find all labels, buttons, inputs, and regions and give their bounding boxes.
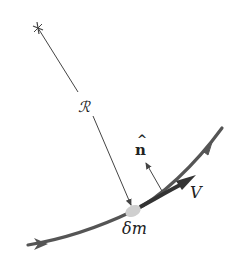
- velocity-label: V: [190, 183, 203, 202]
- radius-label: ℛ: [78, 98, 91, 116]
- streamline-diagram: ℛ V n ^ δm: [0, 0, 233, 265]
- normal-vector: [146, 163, 162, 191]
- element-label: δm: [122, 219, 147, 238]
- velocity-arrow: [140, 184, 182, 207]
- radius-line-lower: [93, 116, 131, 205]
- radius-line: [38, 28, 78, 92]
- normal-hat: ^: [137, 133, 147, 147]
